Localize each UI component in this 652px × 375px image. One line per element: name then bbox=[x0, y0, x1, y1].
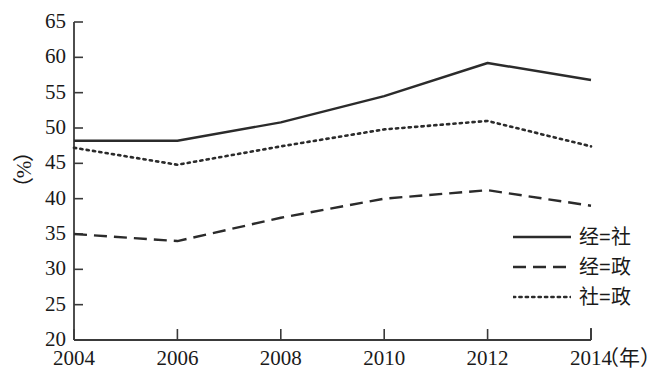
legend-label-1: 经=政 bbox=[579, 257, 631, 277]
x-tick-label-2010: 2010 bbox=[363, 348, 405, 369]
x-tick-label-2006: 2006 bbox=[156, 348, 198, 369]
legend-swatch-dashed-icon bbox=[513, 261, 571, 273]
series-line-2 bbox=[74, 121, 591, 165]
legend-swatch-solid-icon bbox=[513, 231, 571, 243]
legend-label-2: 社=政 bbox=[579, 287, 631, 307]
x-axis-unit-label: （年） bbox=[598, 348, 652, 369]
legend-label-0: 经=社 bbox=[579, 227, 631, 247]
x-tick-label-2004: 2004 bbox=[53, 348, 95, 369]
x-tick-label-2008: 2008 bbox=[260, 348, 302, 369]
legend-swatch-dotted-icon bbox=[513, 291, 571, 303]
x-tick-label-2012: 2012 bbox=[467, 348, 509, 369]
chart-legend: 经=社经=政社=政 bbox=[513, 222, 641, 312]
legend-item-0[interactable]: 经=社 bbox=[513, 222, 641, 252]
legend-item-2[interactable]: 社=政 bbox=[513, 282, 641, 312]
data-series-group bbox=[74, 63, 591, 241]
series-line-0 bbox=[74, 63, 591, 141]
legend-item-1[interactable]: 经=政 bbox=[513, 252, 641, 282]
